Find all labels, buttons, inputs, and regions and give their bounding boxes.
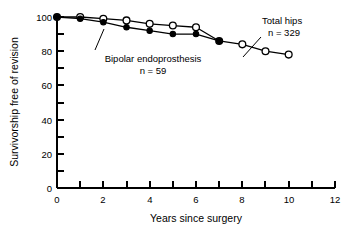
y-tick-labels: 100 80 60 40 20 0 — [36, 12, 52, 194]
axes-group — [57, 17, 335, 188]
y-tick-label-20: 20 — [41, 149, 52, 160]
data-point — [54, 14, 59, 19]
x-axis-ticks — [57, 181, 335, 188]
data-point — [146, 20, 153, 27]
y-tick-label-0: 0 — [47, 183, 52, 194]
data-point — [262, 48, 269, 55]
data-point — [193, 24, 200, 31]
annotation-bipolar-line2: n = 59 — [140, 65, 167, 76]
annotation-bipolar-line1: Bipolar endoprosthesis — [105, 53, 202, 64]
data-point — [123, 17, 130, 24]
data-point — [124, 25, 129, 30]
x-tick-label-10: 10 — [284, 194, 295, 205]
x-tick-label-6: 6 — [193, 194, 198, 205]
data-point — [169, 22, 176, 29]
y-tick-label-80: 80 — [41, 46, 52, 57]
data-point — [170, 31, 175, 36]
x-tick-label-4: 4 — [147, 194, 152, 205]
x-tick-label-12: 12 — [330, 194, 341, 205]
leader-line-bipolar — [95, 29, 104, 50]
annotation-total-hips-line1: Total hips — [262, 15, 302, 26]
data-point — [77, 16, 82, 21]
x-axis-title: Years since surgery — [150, 212, 243, 224]
y-tick-label-40: 40 — [41, 115, 52, 126]
data-point — [285, 51, 292, 58]
x-tick-label-8: 8 — [239, 194, 244, 205]
data-point — [239, 41, 246, 48]
y-axis-ticks — [57, 17, 64, 171]
x-tick-label-2: 2 — [100, 194, 105, 205]
y-tick-label-60: 60 — [41, 80, 52, 91]
data-point — [193, 31, 198, 36]
annotation-total-hips: Total hips n = 329 — [243, 15, 302, 57]
data-point — [147, 28, 152, 33]
series-layer — [54, 14, 292, 58]
data-point — [216, 38, 221, 43]
leader-line-total-hips — [243, 37, 261, 57]
survivorship-chart-figure: 100 80 60 40 20 0 0 2 4 6 8 10 12 Years … — [0, 0, 352, 240]
y-tick-label-100: 100 — [36, 12, 52, 23]
data-point — [101, 19, 106, 24]
annotation-total-hips-line2: n = 329 — [268, 27, 300, 38]
x-tick-label-0: 0 — [54, 194, 59, 205]
annotation-bipolar: Bipolar endoprosthesis n = 59 — [95, 29, 202, 76]
chart-canvas: 100 80 60 40 20 0 0 2 4 6 8 10 12 Years … — [0, 0, 352, 240]
y-axis-title: Survivorship free of revision — [8, 37, 20, 167]
x-tick-labels: 0 2 4 6 8 10 12 — [54, 194, 340, 205]
